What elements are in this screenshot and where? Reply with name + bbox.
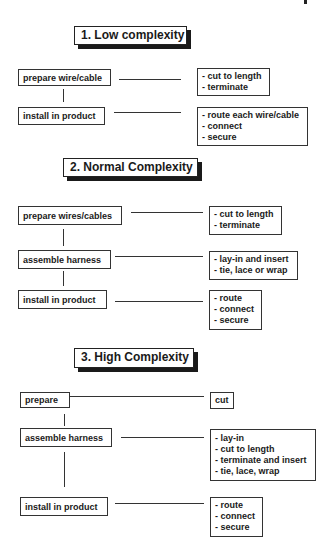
- detail-item: - cut to length: [214, 209, 277, 220]
- corner-mark: [304, 0, 307, 4]
- connector-line: [115, 301, 203, 302]
- details-assemble-harness: - lay-in and insert - tie, lace or wrap: [209, 251, 298, 280]
- connector-line: [115, 256, 203, 257]
- section-title-normal-complexity: 2. Normal Complexity: [63, 158, 198, 177]
- connector-line: [114, 112, 181, 113]
- flow-line: [64, 414, 65, 426]
- section-title-low-complexity: 1. Low complexity: [74, 26, 187, 45]
- step-install-in-product: install in product: [18, 107, 105, 125]
- detail-item: - cut to length: [202, 71, 265, 82]
- detail-item: - terminate: [202, 82, 265, 93]
- details-prepare: cut: [210, 392, 234, 409]
- detail-item: - secure: [215, 522, 258, 533]
- detail-item: - route each wire/cable: [202, 110, 303, 121]
- step-install-in-product: install in product: [18, 290, 107, 309]
- details-install-in-product: - route - connect - secure: [209, 290, 262, 330]
- connector-line: [115, 503, 204, 504]
- detail-item: - cut to length: [215, 444, 311, 455]
- detail-item: - connect: [214, 304, 257, 315]
- detail-item: - route: [214, 293, 257, 304]
- step-assemble-harness: assemble harness: [18, 250, 111, 269]
- detail-item: - secure: [214, 315, 257, 326]
- step-prepare-wires-cables: prepare wires/cables: [18, 206, 122, 225]
- details-install-in-product: - route - connect - secure: [210, 497, 263, 537]
- connector-line: [70, 396, 204, 397]
- connector-line: [121, 437, 204, 438]
- detail-item: - tie, lace, wrap: [215, 466, 311, 477]
- step-prepare: prepare: [20, 392, 70, 408]
- flow-line: [63, 271, 64, 286]
- step-assemble-harness: assemble harness: [20, 428, 112, 447]
- step-prepare-wire-cable: prepare wire/cable: [18, 69, 111, 86]
- detail-item: - terminate and insert: [215, 455, 311, 466]
- detail-item: - lay-in: [215, 433, 311, 444]
- details-prepare-wire-cable: - cut to length - terminate: [197, 68, 270, 96]
- details-prepare-wires-cables: - cut to length - terminate: [209, 206, 282, 235]
- detail-item: - connect: [202, 121, 303, 132]
- section-title-high-complexity: 3. High Complexity: [74, 348, 194, 368]
- flow-line: [63, 89, 64, 102]
- flow-line: [63, 229, 64, 246]
- detail-item: - route: [215, 500, 258, 511]
- connector-line: [119, 79, 181, 80]
- detail-item: - connect: [215, 511, 258, 522]
- details-install-in-product: - route each wire/cable - connect - secu…: [197, 107, 308, 146]
- step-install-in-product: install in product: [20, 497, 108, 516]
- detail-item: cut: [215, 395, 229, 406]
- details-assemble-harness: - lay-in - cut to length - terminate and…: [210, 429, 316, 481]
- flow-line: [64, 452, 65, 487]
- connector-line: [131, 212, 203, 213]
- detail-item: - lay-in and insert: [214, 254, 293, 265]
- detail-item: - secure: [202, 132, 303, 143]
- detail-item: - tie, lace or wrap: [214, 265, 293, 276]
- detail-item: - terminate: [214, 220, 277, 231]
